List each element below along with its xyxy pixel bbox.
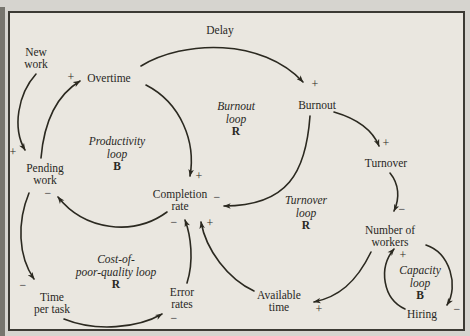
edge-pending-work-to-time-per-task (21, 193, 34, 279)
edge-number-of-workers-to-available-time (314, 252, 371, 302)
edge-overtime-to-burnout (141, 47, 303, 82)
edge-number-of-workers-to-hiring (426, 245, 452, 305)
edge-burnout-to-completion-rate (224, 116, 310, 206)
edge-error-rates-to-completion-rate (185, 220, 191, 283)
edge-available-time-to-completion-rate (201, 222, 254, 291)
edge-burnout-to-turnover (334, 112, 379, 146)
edges-group (18, 47, 452, 326)
edge-pending-work-to-overtime (41, 81, 80, 158)
diagram-canvas (0, 0, 470, 336)
edge-completion-rate-to-pending-work (58, 197, 167, 227)
edge-new-work-to-pending-work (18, 74, 36, 150)
edge-time-per-task-to-error-rates (64, 314, 162, 327)
edge-overtime-to-completion-rate (146, 85, 191, 176)
edge-hiring-to-number-of-workers (385, 249, 405, 309)
figure-page: Delay NewworkOvertimePendingworkCompleti… (0, 0, 470, 336)
edge-turnover-to-number-of-workers (390, 173, 398, 211)
